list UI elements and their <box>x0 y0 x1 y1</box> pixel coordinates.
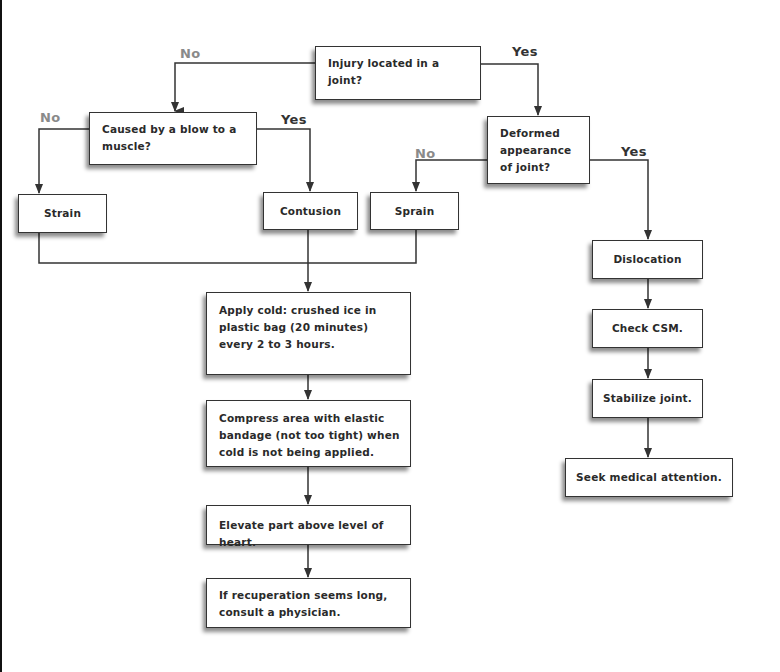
outcome-text: Strain <box>44 205 81 222</box>
outcome-text: Sprain <box>395 203 435 220</box>
outcome-strain: Strain <box>18 194 107 233</box>
deformed-yes-label: Yes <box>621 144 647 159</box>
decision-text: Deformed appearance of joint? <box>500 127 571 173</box>
action-compress-area: Compress area with elastic bandage (not … <box>206 400 411 467</box>
action-apply-cold: Apply cold: crushed ice in plastic bag (… <box>206 292 411 375</box>
blow-no-label: No <box>40 110 60 125</box>
action-text: Stabilize joint. <box>603 390 692 407</box>
decision-text: Caused by a blow to a muscle? <box>102 123 236 152</box>
decision-caused-by-blow: Caused by a blow to a muscle? <box>89 112 257 165</box>
action-text: If recuperation seems long, consult a ph… <box>219 589 388 618</box>
action-text: Apply cold: crushed ice in plastic bag (… <box>219 304 376 350</box>
action-text: Compress area with elastic bandage (not … <box>219 412 400 458</box>
outcome-dislocation: Dislocation <box>592 240 703 279</box>
action-check-csm: Check CSM. <box>592 309 703 348</box>
action-elevate-part: Elevate part above level of heart. <box>206 505 411 545</box>
decision-deformed-joint: Deformed appearance of joint? <box>487 116 590 184</box>
decision-text: Injury located in a joint? <box>328 57 439 86</box>
decision-injury-in-joint: Injury located in a joint? <box>315 46 481 100</box>
action-text: Check CSM. <box>612 320 683 337</box>
action-stabilize-joint: Stabilize joint. <box>592 379 703 418</box>
action-seek-medical-attention: Seek medical attention. <box>565 458 733 497</box>
action-text: Seek medical attention. <box>576 469 722 486</box>
outcome-sprain: Sprain <box>370 192 459 230</box>
blow-yes-label: Yes <box>281 112 307 127</box>
outcome-text: Contusion <box>280 203 341 220</box>
deformed-no-label: No <box>415 146 435 161</box>
root-yes-label: Yes <box>512 44 538 59</box>
root-no-label: No <box>180 46 200 61</box>
outcome-text: Dislocation <box>613 251 681 268</box>
outcome-contusion: Contusion <box>263 192 358 230</box>
action-text: Elevate part above level of heart. <box>219 519 384 548</box>
action-consult-physician: If recuperation seems long, consult a ph… <box>206 578 411 628</box>
